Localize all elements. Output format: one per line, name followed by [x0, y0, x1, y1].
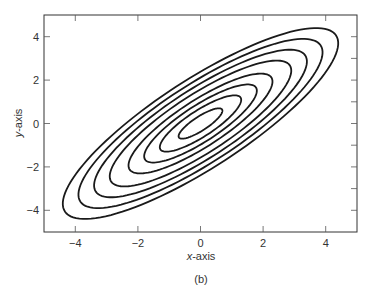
axis-ticks — [44, 15, 357, 232]
y-tick-label: −4 — [26, 204, 39, 216]
contour-ellipse — [160, 95, 241, 151]
contour-ellipse — [110, 61, 291, 187]
plot-frame — [44, 15, 357, 232]
y-axis-label-rest: -axis — [12, 108, 24, 132]
contour-chart: −4−2024 −4−2024 x-axis y-axis (b) — [0, 0, 368, 287]
y-axis-label: y-axis — [12, 108, 24, 138]
contour-ellipse — [63, 28, 338, 219]
y-tick-label: 2 — [33, 74, 39, 86]
contour-lines — [63, 28, 338, 219]
y-tick-label: 0 — [33, 118, 39, 130]
x-tick-label: 2 — [260, 237, 266, 249]
x-tick-label: 0 — [197, 237, 203, 249]
x-tick-label: 4 — [323, 237, 329, 249]
x-tick-label: −4 — [69, 237, 82, 249]
y-tick-label: −2 — [26, 161, 39, 173]
y-tick-label: 4 — [33, 31, 39, 43]
y-tick-labels: −4−2024 — [26, 31, 39, 217]
x-tick-labels: −4−2024 — [69, 237, 329, 249]
x-axis-label-rest: -axis — [192, 250, 216, 262]
x-tick-label: −2 — [132, 237, 145, 249]
x-axis-label: x-axis — [186, 250, 216, 262]
contour-ellipse — [78, 39, 322, 208]
figure-caption: (b) — [194, 273, 207, 285]
